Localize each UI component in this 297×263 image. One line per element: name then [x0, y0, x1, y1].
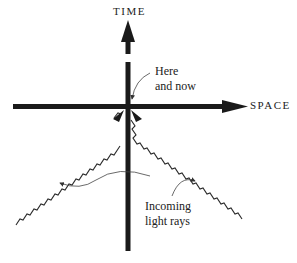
space-arrow-icon [222, 100, 248, 113]
right-ray-arrow-icon [131, 110, 142, 122]
light-rays-label: light rays [145, 214, 190, 229]
left-ray-leader [60, 171, 150, 186]
time-axis-label: TIME [113, 5, 146, 17]
incoming-label: Incoming [145, 199, 191, 214]
time-axis [121, 20, 135, 251]
space-axis-label: SPACE [250, 99, 291, 111]
origin-leader [132, 73, 150, 99]
spacetime-diagram: TIME SPACE Here and now Incoming light r… [0, 0, 297, 263]
left-ray-arrow-icon [113, 110, 124, 122]
here-label: Here [155, 64, 178, 79]
and-now-label: and now [155, 79, 196, 94]
time-arrow-icon [121, 20, 135, 42]
